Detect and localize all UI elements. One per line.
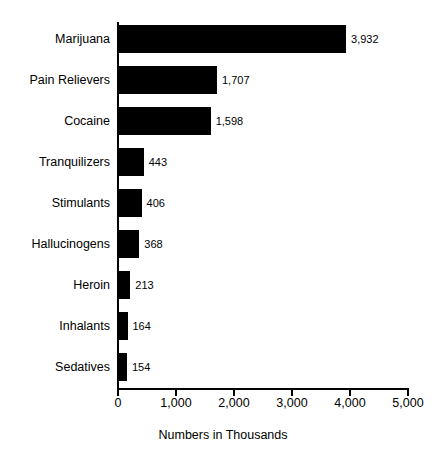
bar-row: Hallucinogens368 [0,230,446,258]
bar-row: Pain Relievers1,707 [0,66,446,94]
bar [118,148,144,176]
bar-value-label: 368 [139,230,162,258]
x-axis-tick-label: 4,000 [334,396,365,410]
category-label: Cocaine [64,107,110,135]
bar-value-label: 213 [130,271,153,299]
x-axis-tick-label: 3,000 [276,396,307,410]
category-label: Sedatives [55,353,110,381]
category-label: Marijuana [55,25,110,53]
bar-row: Cocaine1,598 [0,107,446,135]
category-label: Tranquilizers [39,148,110,176]
bar [118,107,211,135]
bar [118,230,139,258]
bar-row: Heroin213 [0,271,446,299]
bar-row: Stimulants406 [0,189,446,217]
category-label: Heroin [73,271,110,299]
bar-value-label: 406 [142,189,165,217]
x-axis-line [117,388,409,390]
category-label: Stimulants [52,189,110,217]
bar [118,271,130,299]
bar-row: Inhalants164 [0,312,446,340]
bar [118,25,346,53]
x-axis-tick-label: 1,000 [160,396,191,410]
x-axis-title: Numbers in Thousands [0,428,446,442]
x-axis-tick-label: 0 [115,396,122,410]
bar-value-label: 1,707 [217,66,250,94]
bar-row: Marijuana3,932 [0,25,446,53]
bar [118,66,217,94]
bar-value-label: 443 [144,148,167,176]
bar-value-label: 1,598 [211,107,244,135]
bar-row: Sedatives154 [0,353,446,381]
bar-value-label: 154 [127,353,150,381]
x-axis-tick-label: 5,000 [392,396,423,410]
category-label: Inhalants [59,312,110,340]
bar [118,353,127,381]
bar-value-label: 3,932 [346,25,379,53]
bar [118,312,128,340]
x-axis-tick-label: 2,000 [218,396,249,410]
category-label: Hallucinogens [31,230,110,258]
bar-value-label: 164 [128,312,151,340]
bar-row: Tranquilizers443 [0,148,446,176]
bar [118,189,142,217]
category-label: Pain Relievers [29,66,110,94]
bar-chart: Marijuana3,932Pain Relievers1,707Cocaine… [0,0,446,475]
